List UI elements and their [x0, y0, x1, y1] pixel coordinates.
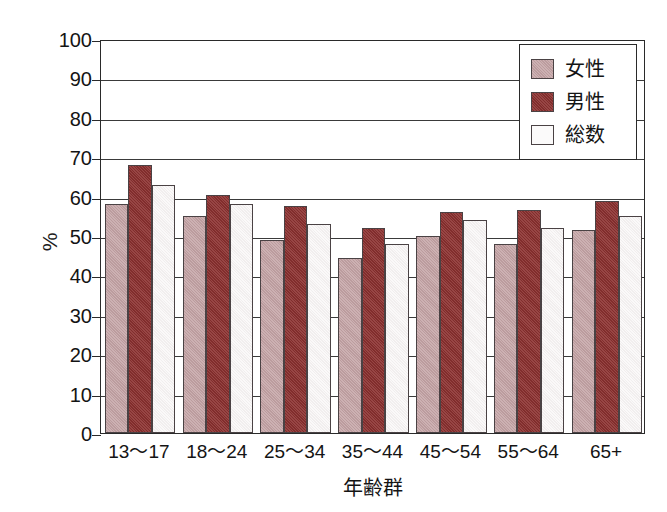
- y-axis-tick-label: 40: [30, 266, 92, 286]
- bar-male-5: [517, 210, 541, 433]
- legend-item: 総数: [531, 118, 636, 151]
- bar-female-1: [183, 216, 207, 433]
- y-axis-tick-labels: 0102030405060708090100: [30, 40, 92, 434]
- y-axis-tick-label: 50: [30, 227, 92, 247]
- x-axis-tick-labels: 13〜1718〜2425〜3435〜4445〜5455〜6465+: [100, 441, 645, 467]
- bar-total-3: [385, 244, 409, 433]
- legend-label: 女性: [565, 59, 605, 79]
- bar-male-2: [284, 206, 308, 433]
- bar-male-6: [595, 201, 619, 433]
- y-axis-tick-mark: [92, 41, 101, 42]
- legend-swatch-total: [531, 125, 554, 145]
- y-axis-tick-label: 80: [30, 109, 92, 129]
- y-axis-tick-mark: [92, 277, 101, 278]
- legend-swatch-male: [531, 92, 554, 112]
- y-axis-tick-label: 60: [30, 188, 92, 208]
- y-axis-tick-mark: [92, 199, 101, 200]
- bar-total-0: [152, 185, 176, 433]
- y-axis-tick-mark: [92, 238, 101, 239]
- y-axis-tick-mark: [92, 435, 101, 436]
- y-axis-tick-label: 100: [30, 30, 92, 50]
- y-axis-tick-label: 90: [30, 69, 92, 89]
- bar-female-6: [572, 230, 596, 433]
- y-axis-tick-mark: [92, 159, 101, 160]
- y-axis-tick-mark: [92, 396, 101, 397]
- legend-item: 男性: [531, 85, 636, 118]
- bar-female-5: [494, 244, 518, 433]
- x-axis-tick-label: 13〜17: [108, 441, 169, 463]
- y-axis-tick-mark: [92, 317, 101, 318]
- bar-total-2: [307, 224, 331, 433]
- legend-swatch-female: [531, 59, 554, 79]
- y-axis-tick-mark: [92, 80, 101, 81]
- bar-total-6: [619, 216, 643, 433]
- y-axis-tick-label: 70: [30, 148, 92, 168]
- bar-female-3: [338, 258, 362, 433]
- bar-female-4: [416, 236, 440, 433]
- x-axis-tick-label: 45〜54: [420, 441, 481, 463]
- legend-label: 男性: [565, 92, 605, 112]
- bar-female-0: [105, 204, 129, 433]
- x-axis-tick-label: 25〜34: [264, 441, 325, 463]
- y-axis-tick-label: 30: [30, 306, 92, 326]
- bar-total-5: [541, 228, 565, 433]
- bar-male-0: [128, 165, 152, 433]
- bar-male-4: [440, 212, 464, 433]
- bar-female-2: [260, 240, 284, 433]
- legend: 女性男性総数: [519, 44, 637, 160]
- x-axis-tick-label: 55〜64: [498, 441, 559, 463]
- y-axis-tick-label: 20: [30, 345, 92, 365]
- y-axis-tick-mark: [92, 356, 101, 357]
- x-axis-title: 年齢群: [100, 477, 645, 499]
- y-axis-tick-label: 10: [30, 385, 92, 405]
- bar-total-1: [230, 204, 254, 433]
- bar-male-3: [362, 228, 386, 433]
- x-axis-tick-label: 35〜44: [342, 441, 403, 463]
- y-axis-tick-mark: [92, 120, 101, 121]
- x-axis-tick-label: 65+: [590, 441, 622, 463]
- bar-total-4: [463, 220, 487, 433]
- y-axis-tick-label: 0: [30, 424, 92, 444]
- legend-item: 女性: [531, 52, 636, 85]
- bar-male-1: [206, 195, 230, 433]
- bar-chart: % 0102030405060708090100 女性男性総数 13〜1718〜…: [0, 0, 667, 512]
- x-axis-tick-label: 18〜24: [186, 441, 247, 463]
- legend-label: 総数: [565, 125, 605, 145]
